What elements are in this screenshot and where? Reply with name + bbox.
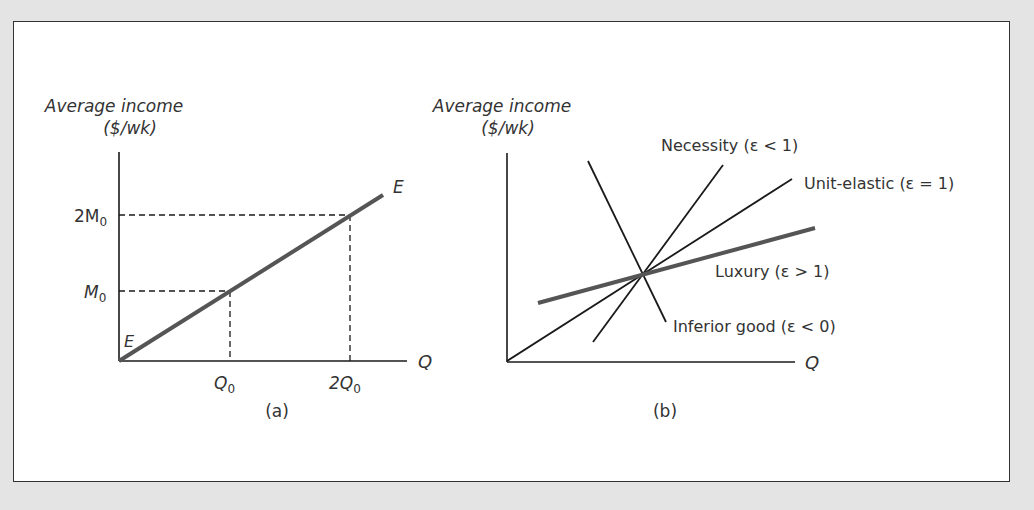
panel-b-ylabel-line1: Average income xyxy=(432,96,571,116)
panel-a-ylabel-line2: ($/wk) xyxy=(103,118,157,138)
panel-a-curve-label-start: E xyxy=(124,332,135,351)
panel-b-label-luxury: Luxury (ε > 1) xyxy=(715,262,829,281)
panel-a-tick-q0: Q0 xyxy=(214,373,235,396)
panel-a-x-label: Q xyxy=(418,351,432,372)
panel-b-caption: (b) xyxy=(653,401,677,421)
panel-a: Average income ($/wk) E E 2M0 M0 Q0 2Q0 … xyxy=(44,96,432,421)
panel-b: Average income ($/wk) Necessity (ε < 1) … xyxy=(432,96,955,421)
panel-b-x-label: Q xyxy=(805,352,819,373)
panel-a-ylabel-line1: Average income xyxy=(44,96,183,116)
panel-a-engel-curve xyxy=(119,195,383,361)
panel-a-caption: (a) xyxy=(265,401,289,421)
panel-b-label-unit-elastic: Unit-elastic (ε = 1) xyxy=(804,174,954,193)
panel-b-necessity-line xyxy=(593,165,723,342)
figure-canvas: Average income ($/wk) E E 2M0 M0 Q0 2Q0 … xyxy=(0,0,1034,510)
panel-b-label-inferior: Inferior good (ε < 0) xyxy=(673,317,836,336)
panel-a-tick-2m0: 2M0 xyxy=(74,206,107,229)
panel-a-tick-2q0: 2Q0 xyxy=(329,373,361,396)
panel-a-curve-label-end: E xyxy=(393,177,404,197)
panel-b-inferior-line xyxy=(588,161,666,322)
panel-b-label-necessity: Necessity (ε < 1) xyxy=(661,136,798,155)
panel-b-ylabel-line2: ($/wk) xyxy=(481,118,535,138)
panel-a-tick-m0: M0 xyxy=(84,282,106,305)
